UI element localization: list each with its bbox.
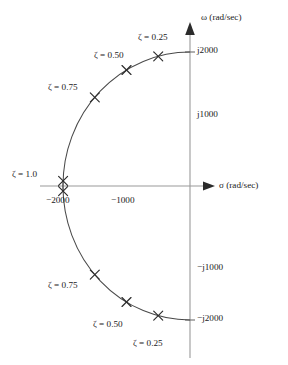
annotation-zeta-075-lower: ζ = 0.75 [48, 281, 78, 290]
annotation-zeta-075-upper: ζ = 0.75 [48, 83, 78, 92]
tick-label-neg-j1000: −j1000 [197, 263, 223, 272]
axis-lines [40, 22, 215, 358]
pole-marker-zeta-025-lower [154, 311, 163, 320]
tick-label-neg-2000: −2000 [46, 196, 70, 205]
annotation-zeta-050-lower: ζ = 0.50 [93, 320, 123, 329]
pole-marker-zeta-050-lower [122, 298, 131, 307]
pole-marker-zeta-075-upper [90, 93, 99, 102]
annotation-zeta-050-upper: ζ = 0.50 [94, 51, 124, 60]
annotation-zeta-025-lower: ζ = 0.25 [133, 339, 163, 348]
sigma-axis-arrowhead [203, 181, 215, 190]
tick-label-neg-1000: −1000 [111, 196, 135, 205]
omega-axis-label: ω (rad/sec) [201, 13, 241, 22]
tick-label-neg-j2000: −j2000 [197, 314, 223, 323]
pole-marker-zeta-075-lower [90, 270, 99, 279]
tick-label-j2000: j2000 [197, 46, 218, 55]
tick-label-j1000: j1000 [197, 110, 218, 119]
pole-marker-zeta-025-upper [154, 52, 163, 61]
pole-marker-zeta-050-upper [122, 66, 131, 75]
omega-axis-arrowhead [185, 22, 195, 35]
annotation-zeta-025-upper: ζ = 0.25 [138, 33, 168, 42]
s-plane-figure: ω (rad/sec) σ (rad/sec) j2000 j1000 −j10… [0, 0, 288, 365]
annotation-zeta-10: ζ = 1.0 [12, 170, 37, 179]
sigma-axis-label: σ (rad/sec) [219, 181, 258, 190]
